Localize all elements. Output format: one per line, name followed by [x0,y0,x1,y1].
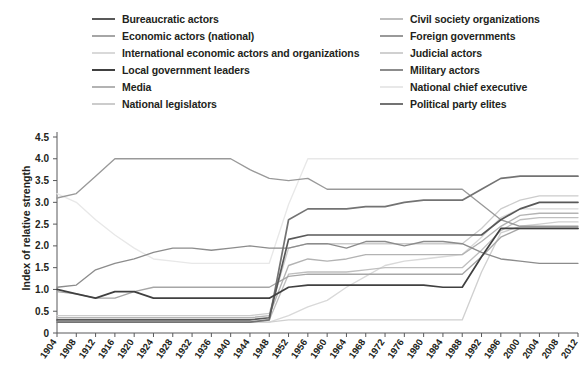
x-tick-label: 1976 [385,337,406,361]
legend-color-swatch [380,52,403,54]
legend-color-swatch [92,103,115,105]
series-line [57,202,578,320]
x-tick-label: 1980 [404,337,425,361]
legend-color-swatch [92,52,115,54]
x-tick-label: 2000 [501,337,522,361]
legend-item[interactable]: Civil society organizations [380,10,540,27]
legend-color-swatch [380,86,403,88]
x-tick-label: 1992 [462,337,483,361]
x-tick-label: 1972 [366,337,387,361]
legend-color-swatch [92,35,115,37]
legend-item[interactable]: Foreign governments [380,27,540,44]
chart-plot-area: Index of relative strength 00.51.01.52.0… [0,118,584,386]
series-line [57,209,578,322]
legend-item[interactable]: National legislators [92,95,359,112]
x-tick-label: 1988 [443,337,464,361]
legend-item[interactable]: Military actors [380,61,540,78]
series-line [57,228,578,298]
legend-item[interactable]: Bureaucratic actors [92,10,359,27]
x-tick-label: 1916 [95,337,116,361]
legend-item-label: Media [122,81,151,93]
legend-item-label: Local government leaders [122,64,250,76]
legend-item-label: Bureaucratic actors [122,13,219,25]
legend-color-swatch [380,103,403,105]
x-tick-label: 1928 [153,337,174,361]
legend-item[interactable]: Media [92,78,359,95]
legend-item-label: National chief executive [410,81,527,93]
x-tick-label: 1908 [57,337,78,361]
x-tick-label: 2012 [559,337,580,361]
legend-item[interactable]: International economic actors and organi… [92,44,359,61]
page-title [0,0,584,10]
legend-item-label: Political party elites [410,98,506,110]
y-tick-label: 1.5 [35,262,49,273]
x-tick-label: 1960 [308,337,329,361]
legend-color-swatch [92,69,115,71]
legend-color-swatch [92,86,115,88]
x-tick-label: 1936 [192,337,213,361]
y-tick-label: 3.5 [35,175,49,186]
legend-color-swatch [380,18,403,20]
y-tick-label: 3.0 [35,197,49,208]
legend-column-right: Civil society organizationsForeign gover… [380,10,540,112]
x-tick-label: 1964 [327,336,349,360]
y-tick-label: 2.5 [35,219,49,230]
x-tick-label: 2008 [539,337,560,361]
chart-legend: Bureaucratic actorsEconomic actors (nati… [0,10,584,114]
legend-item-label: Foreign governments [410,30,515,42]
x-tick-label: 1920 [115,337,136,361]
y-tick-label: 4.5 [35,132,49,143]
y-tick-label: 1.0 [35,284,49,295]
legend-item[interactable]: Economic actors (national) [92,27,359,44]
x-tick-label: 1956 [288,337,309,361]
x-tick-label: 1952 [269,337,290,361]
legend-item-label: Economic actors (national) [122,30,254,42]
y-tick-label: 2.0 [35,240,49,251]
chart-page: Bureaucratic actorsEconomic actors (nati… [0,0,584,386]
legend-item-label: Military actors [410,64,480,76]
legend-item-label: National legislators [122,98,217,110]
legend-color-swatch [380,69,403,71]
y-tick-label: 0.5 [35,306,49,317]
legend-item-label: International economic actors and organi… [122,47,359,59]
x-tick-label: 1984 [423,336,445,360]
x-tick-label: 1996 [481,337,502,361]
x-tick-label: 2004 [520,336,542,360]
x-tick-label: 1932 [173,337,194,361]
x-tick-label: 1912 [76,337,97,361]
legend-item-label: Judicial actors [410,47,482,59]
series-line [57,196,578,316]
legend-color-swatch [380,35,403,37]
legend-column-left: Bureaucratic actorsEconomic actors (nati… [92,10,359,112]
line-chart-svg: 00.51.01.52.02.53.03.54.04.5190419081912… [0,118,584,386]
x-tick-label: 1904 [38,336,60,360]
legend-item[interactable]: Local government leaders [92,61,359,78]
legend-color-swatch [92,18,115,20]
legend-item[interactable]: Judicial actors [380,44,540,61]
x-tick-label: 1940 [211,337,232,361]
legend-item[interactable]: Political party elites [380,95,540,112]
y-tick-label: 4.0 [35,153,49,164]
x-tick-label: 1968 [346,337,367,361]
x-tick-label: 1948 [250,337,271,361]
x-tick-label: 1944 [230,336,252,360]
series-line [57,159,578,227]
legend-item[interactable]: National chief executive [380,78,540,95]
x-tick-label: 1924 [134,336,156,360]
series-line [57,159,578,264]
legend-item-label: Civil society organizations [410,13,540,25]
